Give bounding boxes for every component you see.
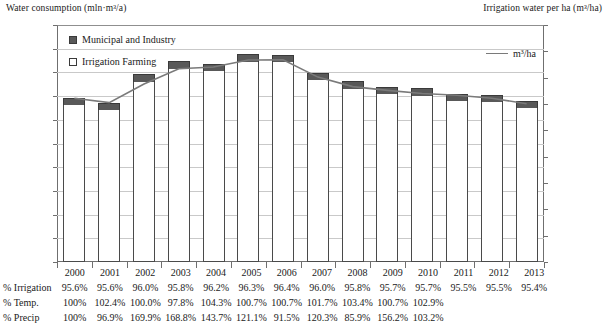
table-cell: 95.8%	[163, 280, 198, 295]
table-cell: 96.2%	[198, 280, 233, 295]
table-cell: 104.3%	[198, 295, 233, 310]
table-cell	[481, 310, 516, 325]
table-header-cell: 2010	[410, 264, 445, 280]
table-cell: 169.9%	[128, 310, 163, 325]
legend-item-municipal[interactable]: Municipal and Industry	[69, 34, 176, 45]
table-cell: 143.7%	[198, 310, 233, 325]
table-cell: 95.7%	[375, 280, 410, 295]
table-cell: 95.6%	[57, 280, 92, 295]
table-header-cell: 2005	[234, 264, 269, 280]
table-cell: 96.0%	[128, 280, 163, 295]
legend-label-irrigation: Irrigation Farming	[82, 56, 156, 67]
legend-label-line: m³/ha	[513, 48, 536, 59]
table-cell: 95.5%	[481, 280, 516, 295]
table-row-label: % Precip	[0, 310, 57, 325]
chart-plot-area: 0500100015002000250030003500400045005000…	[57, 25, 544, 262]
table-cell: 120.3%	[304, 310, 339, 325]
table-cell: 95.4%	[516, 280, 552, 295]
table-cell: 100.0%	[128, 295, 163, 310]
table-cell: 96.4%	[269, 280, 304, 295]
table-row-label: % Temp.	[0, 295, 57, 310]
legend-label-municipal: Municipal and Industry	[82, 34, 176, 45]
table-header-cell: 2009	[375, 264, 410, 280]
legend-swatch-municipal-icon	[69, 36, 77, 44]
table-header-cell: 2008	[340, 264, 375, 280]
table-cell: 100.7%	[269, 295, 304, 310]
table-cell	[446, 310, 481, 325]
table-cell: 95.5%	[446, 280, 481, 295]
table-cell: 95.6%	[92, 280, 127, 295]
y-axis-right-tickmark	[544, 104, 548, 105]
y-axis-right-tickmark	[544, 236, 548, 237]
table-header-cell: 2004	[198, 264, 233, 280]
table-cell: 96.9%	[92, 310, 127, 325]
table-cell: 97.8%	[163, 295, 198, 310]
table-cell: 102.9%	[410, 295, 445, 310]
left-axis-title: Water consumption (mln·m³/a)	[6, 3, 126, 13]
table-cell	[516, 295, 552, 310]
table-header-row: 2000200120022003200420052006200720082009…	[0, 264, 552, 280]
legend-item-line[interactable]: m³/ha	[486, 48, 536, 59]
right-axis-title: Irrigation water per ha (m³/ha)	[483, 3, 602, 13]
table-row: % Precip100%96.9%169.9%168.8%143.7%121.1…	[0, 310, 552, 325]
table-cell: 85.9%	[340, 310, 375, 325]
table-cell: 91.5%	[269, 310, 304, 325]
table-cell: 95.7%	[410, 280, 445, 295]
table-cell: 100.7%	[234, 295, 269, 310]
legend-item-irrigation[interactable]: Irrigation Farming	[69, 56, 156, 67]
table-row-label: % Irrigation	[0, 280, 57, 295]
table-cell: 156.2%	[375, 310, 410, 325]
y-axis-right-tickmark	[544, 51, 548, 52]
table-header-cell: 2007	[304, 264, 339, 280]
table-row: % Temp.100%102.4%100.0%97.8%104.3%100.7%…	[0, 295, 552, 310]
table-header-cell: 2001	[92, 264, 127, 280]
y-axis-right-tickmark	[544, 78, 548, 79]
table-cell	[446, 295, 481, 310]
data-table: 2000200120022003200420052006200720082009…	[0, 264, 608, 325]
table-body: % Irrigation95.6%95.6%96.0%95.8%96.2%96.…	[0, 280, 552, 325]
y-axis-right-tickmark	[544, 25, 548, 26]
table-cell: 100%	[57, 295, 92, 310]
table-header-cell: 2002	[128, 264, 163, 280]
y-axis-right-tickmark	[544, 157, 548, 158]
table-cell	[481, 295, 516, 310]
table-cell	[516, 310, 552, 325]
table-row: % Irrigation95.6%95.6%96.0%95.8%96.2%96.…	[0, 280, 552, 295]
legend-swatch-line-icon	[486, 53, 508, 54]
legend-swatch-irrigation-icon	[69, 58, 77, 66]
y-axis-right-tickmark	[544, 183, 548, 184]
table-corner-cell	[0, 264, 57, 280]
table-cell: 101.7%	[304, 295, 339, 310]
table-cell: 95.8%	[340, 280, 375, 295]
table-cell: 103.4%	[340, 295, 375, 310]
table-cell: 100.7%	[375, 295, 410, 310]
values-table: 2000200120022003200420052006200720082009…	[0, 264, 552, 325]
table-header-cell: 2012	[481, 264, 516, 280]
table-header-cell: 2006	[269, 264, 304, 280]
table-cell: 102.4%	[92, 295, 127, 310]
table-cell: 96.3%	[234, 280, 269, 295]
y-axis-right-tickmark	[544, 209, 548, 210]
table-cell: 96.0%	[304, 280, 339, 295]
table-header-cell: 2013	[516, 264, 552, 280]
table-cell: 103.2%	[410, 310, 445, 325]
table-cell: 121.1%	[234, 310, 269, 325]
table-header-cell: 2011	[446, 264, 481, 280]
y-axis-right-tickmark	[544, 130, 548, 131]
table-header-cell: 2003	[163, 264, 198, 280]
table-cell: 168.8%	[163, 310, 198, 325]
table-cell: 100%	[57, 310, 92, 325]
table-header-cell: 2000	[57, 264, 92, 280]
